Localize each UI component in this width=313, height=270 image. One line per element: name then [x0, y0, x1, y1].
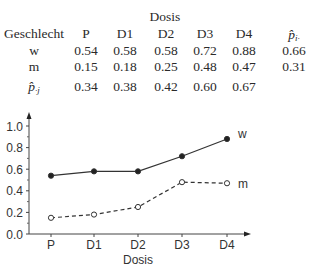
col-margin-row-label: p̂·j: [28, 80, 40, 95]
proportions-table: Dosis Geschlecht P D1 D2 D3 D4 p̂i· w 0.…: [0, 0, 313, 100]
open-circle-marker-icon: [224, 181, 229, 186]
row-margin-header: p̂i·: [288, 28, 300, 43]
x-tick-label: D3: [174, 238, 190, 252]
y-tick-label: 0.0: [6, 228, 23, 242]
cell-m-d3: 0.48: [193, 60, 217, 74]
p-hat-symbol: p̂: [28, 79, 35, 94]
chart-series: wm: [48, 127, 248, 220]
filled-circle-marker-icon: [135, 169, 140, 174]
col-header-d2: D2: [158, 27, 175, 41]
filled-circle-marker-icon: [224, 136, 229, 141]
filled-circle-marker-icon: [48, 173, 53, 178]
x-axis-arrow-icon: [244, 232, 251, 237]
x-axis-ticks: PD1D2D3D4: [47, 234, 235, 252]
filled-circle-marker-icon: [91, 169, 96, 174]
y-tick-label: 0.6: [6, 163, 23, 177]
y-tick-label: 1.0: [6, 120, 23, 134]
x-tick-label: D1: [86, 238, 102, 252]
cell-m-d4: 0.47: [232, 60, 256, 74]
y-axis-arrow-icon: [27, 112, 32, 119]
cell-w-d2: 0.58: [154, 44, 178, 58]
cell-w-d1: 0.58: [113, 44, 137, 58]
cell-m-margin: 0.31: [282, 60, 306, 74]
dosis-group-header: Dosis: [150, 10, 181, 24]
x-tick-label: P: [47, 238, 55, 252]
p-hat-subscript: i·: [295, 33, 300, 43]
x-tick-label: D4: [219, 238, 235, 252]
cell-margin-d2: 0.42: [154, 80, 178, 94]
cell-m-p: 0.15: [74, 60, 98, 74]
open-circle-marker-icon: [91, 212, 96, 217]
y-tick-label: 0.4: [6, 184, 23, 198]
cell-margin-d4: 0.67: [232, 80, 256, 94]
y-axis-ticks: 0.00.20.40.60.81.0: [6, 120, 29, 242]
x-tick-label: D2: [130, 238, 146, 252]
filled-circle-marker-icon: [179, 154, 184, 159]
cell-margin-p: 0.34: [74, 80, 98, 94]
geschlecht-header: Geschlecht: [4, 27, 64, 41]
series-w: w: [48, 127, 247, 178]
line-chart: 0.00.20.40.60.81.0 PD1D2D3D4 Dosis wm: [0, 100, 313, 270]
y-tick-label: 0.2: [6, 206, 23, 220]
col-header-d3: D3: [197, 27, 214, 41]
p-hat-symbol: p̂: [288, 27, 295, 42]
y-tick-label: 0.8: [6, 141, 23, 155]
col-header-d4: D4: [236, 27, 253, 41]
open-circle-marker-icon: [179, 180, 184, 185]
open-circle-marker-icon: [48, 215, 53, 220]
cell-w-d3: 0.72: [193, 44, 217, 58]
cell-w-margin: 0.66: [282, 44, 306, 58]
cell-m-d2: 0.25: [154, 60, 178, 74]
col-header-p: P: [82, 27, 90, 41]
cell-w-d4: 0.88: [232, 44, 256, 58]
open-circle-marker-icon: [135, 204, 140, 209]
chart-axes: 0.00.20.40.60.81.0 PD1D2D3D4: [6, 112, 251, 252]
x-axis-label: Dosis: [123, 253, 153, 267]
series-m: m: [48, 177, 248, 220]
cell-margin-d1: 0.38: [113, 80, 137, 94]
cell-m-d1: 0.18: [113, 60, 137, 74]
cell-margin-d3: 0.60: [193, 80, 217, 94]
p-hat-subscript: ·j: [35, 85, 40, 95]
row-label-m: m: [29, 60, 40, 74]
series-label-m: m: [238, 177, 248, 191]
row-label-w: w: [29, 44, 39, 58]
col-header-d1: D1: [117, 27, 134, 41]
cell-w-p: 0.54: [74, 44, 98, 58]
series-label-w: w: [237, 127, 247, 141]
